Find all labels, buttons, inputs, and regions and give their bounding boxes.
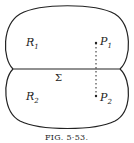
point-p1-dot bbox=[95, 42, 97, 44]
region-r1-label: R1 bbox=[25, 36, 39, 51]
point-p1-label: P1 bbox=[99, 35, 112, 50]
point-p2-dot bbox=[95, 95, 97, 97]
region-r1-boundary bbox=[5, 6, 128, 69]
figure-caption: FIG. 5·53. bbox=[45, 133, 88, 142]
region-r2-label: R2 bbox=[25, 90, 39, 105]
surface-sigma-label: Σ bbox=[55, 72, 62, 83]
point-p2-label: P2 bbox=[99, 91, 112, 106]
diagram: R1 R2 P1 P2 Σ FIG. 5·53. bbox=[0, 0, 134, 143]
